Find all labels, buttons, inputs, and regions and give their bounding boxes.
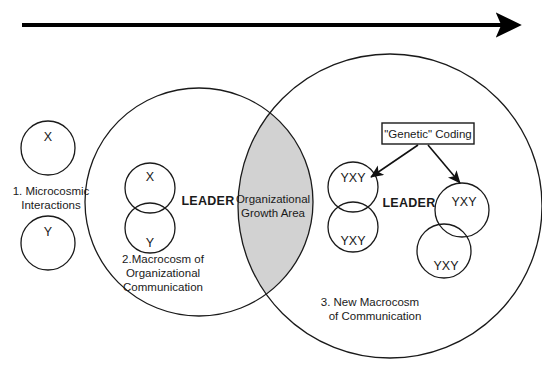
genetic-coding-arrow-right: [428, 145, 460, 183]
caption-macrocosm-line3: Communication: [123, 281, 203, 293]
caption-microcosm-line1: 1. Microcosmic: [13, 185, 90, 197]
macrocosm-label-y: Y: [146, 236, 155, 250]
yxy-circle-3: [435, 183, 489, 237]
caption-new-macrocosm-line2: of Communication: [329, 310, 422, 322]
microcosm-label-y: Y: [44, 225, 53, 239]
caption-new-macrocosm-line1: 3. New Macrocosm: [321, 296, 419, 308]
microcosm-label-x: X: [44, 130, 53, 144]
genetic-coding-label: "Genetic" Coding: [384, 128, 471, 140]
leader-label-right: LEADER: [382, 196, 435, 210]
caption-microcosm-line2: Interactions: [21, 199, 81, 211]
yxy-label-2: YXY: [340, 234, 366, 248]
leader-label-left: LEADER: [181, 194, 234, 208]
diagram-canvas: X Y 1. Microcosmic Interactions X Y LEAD…: [0, 0, 542, 373]
yxy-circle-1: [328, 162, 378, 212]
yxy-label-4: YXY: [433, 259, 459, 273]
genetic-coding-arrow-left: [371, 145, 418, 177]
macrocosm-label-x: X: [146, 170, 155, 184]
overlap-label-line2: Growth Area: [241, 207, 306, 219]
yxy-label-1: YXY: [340, 171, 366, 185]
caption-macrocosm-line2: Organizational: [126, 267, 200, 279]
caption-macrocosm-line1: 2.Macrocosm of: [122, 253, 205, 265]
overlap-label-line1: Organizational: [236, 193, 310, 205]
yxy-label-3: YXY: [451, 195, 477, 209]
